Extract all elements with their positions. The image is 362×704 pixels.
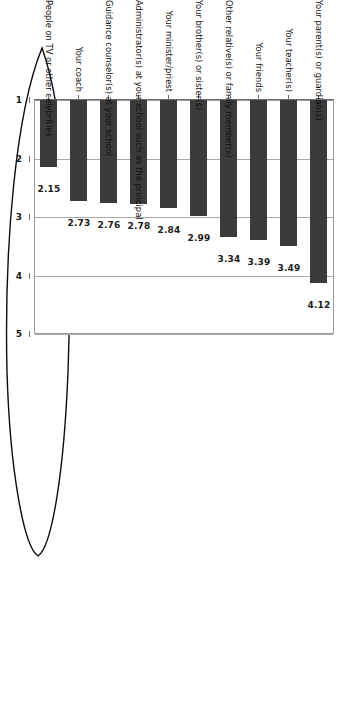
rotated-chart-wrapper: 123454.12Your parent(s) or guardian(s)3.…	[0, 0, 362, 704]
gridline	[35, 334, 333, 335]
bar-fill	[71, 100, 88, 201]
bar-fill	[251, 100, 268, 240]
value-axis-label: 3	[13, 212, 25, 222]
bar-value-label: 2.73	[67, 218, 90, 228]
value-axis-tick	[29, 156, 30, 162]
bar	[311, 100, 328, 283]
bar-value-label: 2.78	[127, 221, 150, 231]
bar-fill	[191, 100, 208, 216]
bar-value-label: 2.15	[37, 184, 60, 194]
bar-value-label: 3.39	[247, 256, 270, 266]
bar	[161, 100, 178, 208]
value-axis-tick	[29, 273, 30, 279]
value-axis-tick	[29, 331, 30, 337]
bar-chart: 123454.12Your parent(s) or guardian(s)3.…	[0, 0, 362, 704]
bar-value-label: 3.49	[277, 262, 300, 272]
category-label: Your brother(s) or sister(s)	[191, 0, 208, 92]
bar	[281, 100, 298, 246]
bar-value-label: 2.76	[97, 219, 120, 229]
bar-value-label: 3.34	[217, 253, 240, 263]
bar-value-label: 2.99	[187, 233, 210, 243]
category-axis-tick	[258, 95, 259, 100]
bar-value-label: 2.84	[157, 224, 180, 234]
category-label: Your minister/priest	[161, 0, 178, 92]
category-label: People on TV or other celebrities	[41, 0, 58, 92]
category-label: Your parent(s) or guardian(s)	[311, 0, 328, 92]
value-axis-label: 5	[13, 329, 25, 339]
category-label: Your friends	[251, 0, 268, 92]
category-axis-tick	[168, 95, 169, 100]
bar	[251, 100, 268, 240]
bar	[71, 100, 88, 201]
bar-fill	[161, 100, 178, 208]
bar-fill	[281, 100, 298, 246]
bar	[191, 100, 208, 216]
category-axis-tick	[288, 95, 289, 100]
category-label: Guidance counselor(s) at your school	[101, 0, 118, 92]
gridline	[35, 276, 333, 277]
category-label: Administrator(s) at your school such as …	[131, 0, 148, 92]
value-axis-tick	[29, 97, 30, 103]
value-axis-label: 2	[13, 154, 25, 164]
bar-value-label: 4.12	[307, 299, 330, 309]
value-axis-label: 1	[13, 95, 25, 105]
bar-fill	[311, 100, 328, 283]
value-axis-tick	[29, 214, 30, 220]
category-axis-tick	[78, 95, 79, 100]
category-label: Other relative(s) or family member(s)	[221, 0, 238, 92]
value-axis-label: 4	[13, 271, 25, 281]
category-label: Your coach	[71, 0, 88, 92]
category-label: Your teacher(s)	[281, 0, 298, 92]
